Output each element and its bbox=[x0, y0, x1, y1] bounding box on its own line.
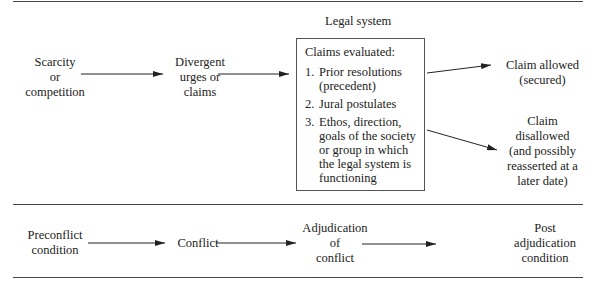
arrow-box-to-allowed bbox=[427, 65, 491, 73]
flow-arrows bbox=[0, 0, 595, 285]
arrow-box-to-disallowed bbox=[427, 130, 497, 150]
